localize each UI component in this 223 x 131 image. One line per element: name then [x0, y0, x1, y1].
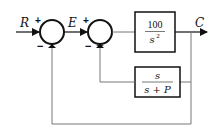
feedback-block: s s + P	[135, 67, 180, 97]
forward-denominator-exponent: 2	[156, 32, 160, 40]
forward-numerator: 100	[148, 19, 163, 30]
block-diagram: R + − E + − 100 s 2 C s s + P	[0, 0, 223, 131]
sum2-plus-sign: +	[83, 15, 89, 26]
output-label-c: C	[195, 16, 204, 30]
sum2-minus-sign: −	[85, 40, 91, 52]
sum1-plus-sign: +	[35, 15, 41, 26]
input-label-r: R	[19, 16, 29, 30]
error-label-e: E	[67, 16, 77, 30]
sum1-minus-sign: −	[37, 40, 43, 52]
feedback-denominator: s + P	[144, 84, 171, 95]
inner-feedback-line	[100, 46, 135, 82]
forward-denominator-base: s	[149, 34, 154, 45]
summing-junction-1	[40, 20, 64, 44]
forward-block: 100 s 2	[135, 12, 175, 52]
feedback-numerator: s	[155, 70, 160, 81]
summing-junction-2	[88, 20, 112, 44]
